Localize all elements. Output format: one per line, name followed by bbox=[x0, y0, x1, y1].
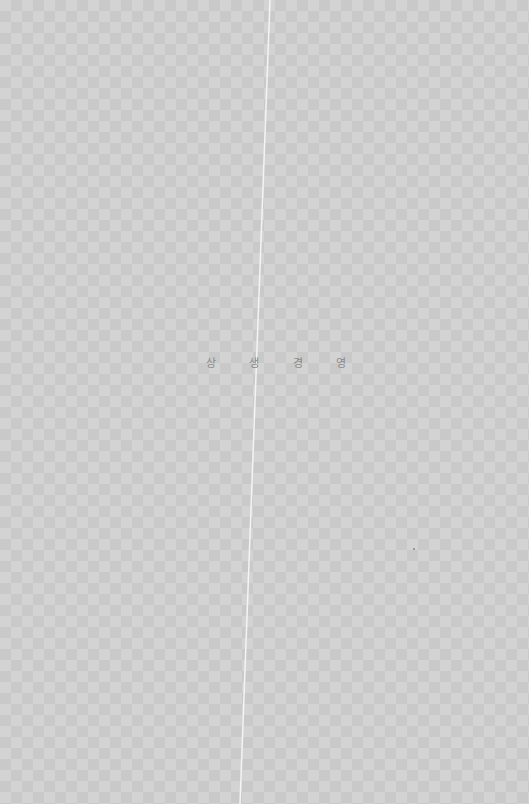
title-char-3: 경 bbox=[293, 354, 303, 370]
fold-line bbox=[0, 0, 529, 804]
title-char-1: 상 bbox=[206, 354, 216, 370]
page-title: 상 생 경 영 bbox=[206, 354, 346, 370]
page-background: 상 생 경 영 bbox=[0, 0, 529, 804]
title-char-2: 생 bbox=[249, 354, 259, 370]
dust-speck bbox=[413, 548, 415, 550]
title-char-4: 영 bbox=[336, 354, 346, 370]
